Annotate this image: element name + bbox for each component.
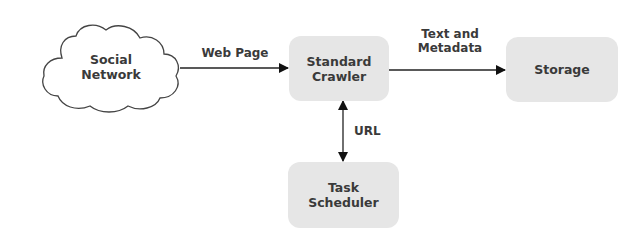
node-standard-crawler: Standard Crawler — [289, 36, 389, 101]
node-storage: Storage — [506, 37, 618, 102]
edge-label-text-metadata-line1: Text and — [405, 27, 495, 41]
edge-label-text-metadata-line2: Metadata — [405, 41, 495, 55]
node-standard-crawler-line1: Standard — [307, 54, 372, 69]
node-task-scheduler-line2: Scheduler — [308, 195, 379, 210]
edge-label-text-metadata: Text and Metadata — [405, 27, 495, 55]
node-task-scheduler: Task Scheduler — [288, 162, 399, 228]
node-storage-line1: Storage — [534, 62, 590, 77]
edge-label-web-page: Web Page — [190, 46, 280, 60]
node-task-scheduler-line1: Task — [328, 180, 359, 195]
node-social-network-line1: Social — [90, 52, 132, 67]
node-social-network-line2: Network — [81, 67, 141, 82]
node-standard-crawler-line2: Crawler — [312, 69, 366, 84]
diagram-canvas: Social Network Web Page Standard Crawler… — [0, 0, 644, 232]
node-social-network: Social Network — [42, 22, 180, 112]
edge-label-url: URL — [354, 124, 381, 138]
